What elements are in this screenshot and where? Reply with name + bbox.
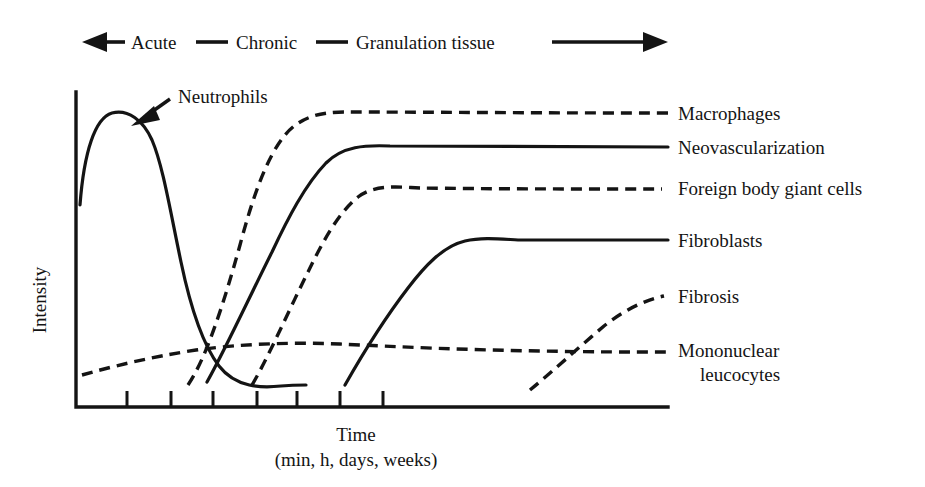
curve-neovascularization [207, 146, 668, 382]
x-axis-title: Time [336, 424, 375, 445]
x-axis-ticks [127, 391, 383, 407]
axis-lines [76, 92, 668, 407]
series-label-fibroblasts: Fibroblasts [678, 230, 762, 251]
annotation-neutrophils: Neutrophils [131, 86, 268, 126]
arrow-right-icon [643, 32, 668, 52]
series-label-macrophages: Macrophages [678, 103, 780, 124]
curve-mononuclear-leucocytes [82, 343, 668, 375]
arrow-left-icon [82, 32, 107, 52]
series-label-foreign-body-giant-cells: Foreign body giant cells [678, 178, 862, 199]
series-label-mononuclear: Mononuclear [678, 340, 780, 361]
phase-label-acute: Acute [131, 32, 176, 53]
series-label-fibrosis: Fibrosis [678, 286, 739, 307]
series-label-leucocytes: leucocytes [700, 364, 780, 385]
series-curves [80, 112, 668, 390]
phase-label-granulation-tissue: Granulation tissue [356, 32, 495, 53]
curve-fibrosis [530, 296, 664, 390]
phase-timeline: Acute Chronic Granulation tissue [82, 32, 668, 53]
phase-label-chronic: Chronic [236, 32, 297, 53]
annotation-label-neutrophils: Neutrophils [178, 86, 268, 107]
y-axis-title: Intensity [29, 266, 50, 333]
curve-fibroblasts [345, 239, 668, 385]
series-label-list: Macrophages Neovascularization Foreign b… [678, 103, 862, 385]
series-label-neovascularization: Neovascularization [678, 137, 825, 158]
figure-root: Acute Chronic Granulation tissue Intensi… [0, 0, 925, 487]
inflammation-timeline-chart: Acute Chronic Granulation tissue Intensi… [0, 0, 925, 487]
x-axis-subtitle: (min, h, days, weeks) [275, 449, 438, 471]
curve-foreign-body-giant-cells [252, 187, 662, 385]
